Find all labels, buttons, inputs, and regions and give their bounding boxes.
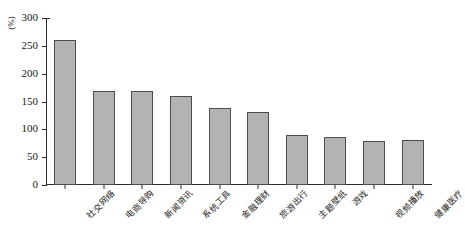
x-axis-tick [65, 185, 66, 189]
x-axis-tick [374, 185, 375, 189]
bar[interactable] [131, 91, 153, 185]
bar[interactable] [286, 135, 308, 185]
bar-slot [278, 18, 317, 185]
bar[interactable] [324, 137, 346, 185]
x-axis-tick [258, 185, 259, 189]
x-axis-label: 视频播放 [394, 188, 427, 221]
bar-slot [316, 18, 355, 185]
x-axis-label: 旅游出行 [278, 188, 311, 221]
bar[interactable] [363, 141, 385, 185]
x-axis-label: 主题壁纸 [316, 188, 349, 221]
bar[interactable] [247, 112, 269, 185]
x-axis-tick [181, 185, 182, 189]
x-axis-label: 新闻资讯 [162, 188, 195, 221]
bar[interactable] [209, 108, 231, 185]
bar-slot [393, 18, 432, 185]
bar-slot [85, 18, 124, 185]
y-axis-tick-label: 200 [4, 67, 38, 80]
bar[interactable] [402, 140, 424, 185]
y-axis-tick-label: 50 [4, 150, 38, 163]
y-axis-tick-label: 150 [4, 95, 38, 108]
plot-area: 050100150200250300 [46, 18, 432, 185]
bar-slot [162, 18, 201, 185]
bar-slot [200, 18, 239, 185]
bar-slot [46, 18, 85, 185]
bar-slot [355, 18, 394, 185]
bar-slot [123, 18, 162, 185]
x-axis-tick [335, 185, 336, 189]
bar[interactable] [170, 96, 192, 185]
x-axis-label: 系统工具 [201, 188, 234, 221]
x-axis-tick [219, 185, 220, 189]
y-axis-tick-label: 0 [4, 178, 38, 191]
y-axis-tick-label: 250 [4, 39, 38, 52]
bar-series [46, 18, 432, 185]
y-axis-tick: 0 [42, 185, 47, 186]
y-axis-tick-label: 300 [4, 11, 38, 24]
x-axis-label: 游戏 [350, 188, 370, 208]
x-axis-tick [103, 185, 104, 189]
x-axis-label: 社交网络 [85, 188, 118, 221]
x-axis-tick [296, 185, 297, 189]
x-axis-label: 金融理财 [239, 188, 272, 221]
x-axis-label: 电商导购 [123, 188, 156, 221]
x-axis-tick [412, 185, 413, 189]
bar-slot [239, 18, 278, 185]
bar[interactable] [54, 40, 76, 185]
bar[interactable] [93, 91, 115, 185]
x-axis-tick [142, 185, 143, 189]
x-axis-label: 健康医疗 [432, 188, 465, 221]
y-axis-tick-label: 100 [4, 122, 38, 135]
